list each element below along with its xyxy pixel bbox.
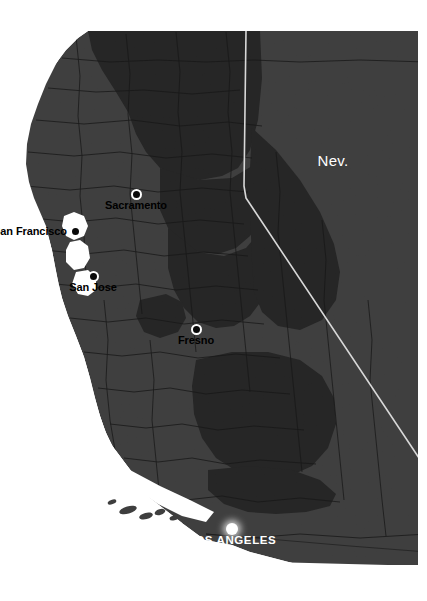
city-label-sacramento: Sacramento [105, 200, 167, 211]
city-dot-icon [88, 271, 99, 282]
california-map-graphic [0, 0, 427, 601]
city-dot-icon [131, 189, 142, 200]
city-label-fresno: Fresno [178, 335, 214, 346]
map-canvas: — — —— ——— [0, 0, 427, 601]
city-label-san-jose: San Jose [69, 282, 117, 293]
map-right-margin [418, 0, 427, 601]
city-dot-icon [70, 226, 81, 237]
map-top-margin [0, 0, 427, 31]
city-label-los-angeles: LOS ANGELES [188, 535, 277, 547]
city-dot-icon [191, 324, 202, 335]
city-label-san-francisco: San Francisco [0, 226, 67, 237]
state-label-nevada: Nev. [318, 152, 349, 169]
